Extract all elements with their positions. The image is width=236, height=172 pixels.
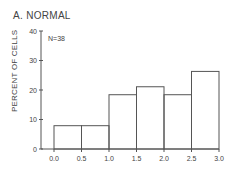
histogram-bar	[137, 87, 165, 149]
histogram-plot: 0102030400.00.51.01.52.02.53.0	[0, 0, 236, 172]
y-tick-label: 10	[29, 116, 37, 123]
histogram-bar	[82, 126, 110, 149]
y-tick-label: 20	[29, 87, 37, 94]
y-tick-label: 0	[33, 146, 37, 153]
x-tick-label: 2.0	[159, 155, 169, 162]
x-tick-label: 0.0	[49, 155, 59, 162]
histogram-bar	[164, 95, 192, 149]
x-tick-label: 2.5	[187, 155, 197, 162]
y-tick-label: 30	[29, 57, 37, 64]
histogram-bar	[192, 71, 220, 149]
x-tick-label: 1.0	[104, 155, 114, 162]
histogram-bar	[54, 126, 82, 149]
y-tick-label: 40	[29, 28, 37, 35]
histogram-bar	[109, 95, 137, 149]
x-tick-label: 0.5	[77, 155, 87, 162]
x-tick-label: 1.5	[132, 155, 142, 162]
x-tick-label: 3.0	[214, 155, 224, 162]
